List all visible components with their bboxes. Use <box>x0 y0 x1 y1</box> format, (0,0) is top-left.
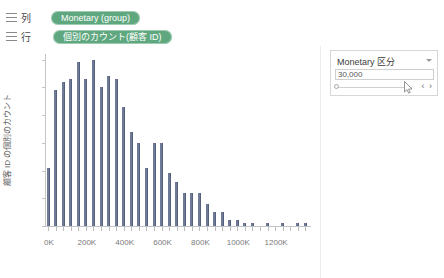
x-axis-tick-mark <box>245 227 246 231</box>
histogram-bar[interactable] <box>84 79 87 226</box>
x-axis-tick-mark <box>116 227 117 231</box>
x-axis-tick-mark <box>109 227 110 231</box>
x-axis-tick-mark <box>268 227 269 231</box>
x-axis-tick-mark <box>101 227 102 231</box>
x-axis-tick-mark <box>260 227 261 231</box>
chevron-down-icon[interactable] <box>426 59 432 62</box>
x-axis-tick-mark <box>237 227 238 231</box>
histogram-bar[interactable] <box>69 79 72 226</box>
x-axis-tick-label: 400K <box>115 238 134 247</box>
x-axis-tick-mark <box>177 227 178 231</box>
x-axis-tick-label: 200K <box>78 238 97 247</box>
histogram-bar[interactable] <box>145 168 148 226</box>
filter-card-title: Monetary 区分 <box>337 55 395 68</box>
x-axis-tick-mark <box>275 227 276 231</box>
x-axis-tick-mark <box>215 227 216 231</box>
y-axis-title: 顧客 ID の個別のカウント <box>2 54 14 226</box>
columns-shelf[interactable]: 列 Monetary (group) <box>0 8 140 27</box>
histogram-bar[interactable] <box>130 132 133 226</box>
x-axis-tick-mark <box>48 227 49 231</box>
histogram-bar[interactable] <box>221 212 224 226</box>
filter-card-monetary[interactable]: Monetary 区分 30,000 ‹ › <box>330 50 438 96</box>
histogram-bar[interactable] <box>175 182 178 226</box>
pill-monetary-group[interactable]: Monetary (group) <box>51 11 140 25</box>
histogram-bar[interactable] <box>168 173 171 226</box>
histogram-bar[interactable] <box>236 220 239 226</box>
x-axis-tick-label: 600K <box>153 238 172 247</box>
x-axis-tick-label: 800K <box>191 238 210 247</box>
histogram-bar[interactable] <box>198 193 201 226</box>
chart-panel[interactable]: 顧客 ID の個別のカウント Monetary (group) 01020304… <box>0 46 320 278</box>
x-axis-tick-mark <box>252 227 253 231</box>
x-axis-tick-mark <box>154 227 155 231</box>
panel-separator <box>320 46 321 278</box>
rows-shelf[interactable]: 行 個別のカウント(顧客 ID) <box>0 27 172 46</box>
x-axis-tick-mark <box>162 227 163 231</box>
x-axis-tick-mark <box>305 227 306 231</box>
histogram-bar[interactable] <box>296 223 299 226</box>
x-axis-tick-mark <box>207 227 208 231</box>
x-axis-tick-mark <box>93 227 94 231</box>
filter-slider-track[interactable] <box>336 87 412 88</box>
histogram-bar[interactable] <box>213 212 216 226</box>
x-axis-tick-mark <box>298 227 299 231</box>
histogram-bar[interactable] <box>115 79 118 226</box>
x-axis-tick-mark <box>290 227 291 231</box>
histogram-bar[interactable] <box>92 60 95 226</box>
x-axis-tick-mark <box>222 227 223 231</box>
histogram-bar[interactable] <box>281 223 284 226</box>
shelf-area: 列 Monetary (group) 行 個別のカウント(顧客 ID) <box>0 0 444 46</box>
histogram-bar[interactable] <box>122 107 125 226</box>
histogram-bar[interactable] <box>153 143 156 226</box>
histogram-plot[interactable] <box>45 54 310 226</box>
x-axis-tick-mark <box>78 227 79 231</box>
x-axis-tick-mark <box>139 227 140 231</box>
x-axis-tick-label: 1000K <box>227 238 250 247</box>
x-axis-tick-mark <box>283 227 284 231</box>
histogram-bar[interactable] <box>304 223 307 226</box>
x-axis-tick-mark <box>124 227 125 231</box>
x-axis-tick-mark <box>199 227 200 231</box>
histogram-bar[interactable] <box>137 143 140 226</box>
histogram-bar[interactable] <box>100 87 103 226</box>
histogram-bar[interactable] <box>160 143 163 226</box>
histogram-bar[interactable] <box>251 223 254 226</box>
x-axis-tick-mark <box>86 227 87 231</box>
filter-nav-arrows[interactable]: ‹ › <box>422 81 434 91</box>
columns-icon <box>6 13 17 22</box>
x-axis-tick-mark <box>63 227 64 231</box>
x-axis-tick-mark <box>192 227 193 231</box>
columns-shelf-label: 列 <box>21 10 45 25</box>
filter-value-box[interactable]: 30,000 <box>335 69 434 80</box>
x-axis-tick-mark <box>169 227 170 231</box>
x-axis-tick-mark <box>71 227 72 231</box>
filter-value-input[interactable]: 30,000 <box>338 70 362 80</box>
histogram-bar[interactable] <box>206 204 209 226</box>
rows-shelf-label: 行 <box>21 29 45 44</box>
x-axis-tick-mark <box>184 227 185 231</box>
histogram-bar[interactable] <box>190 193 193 226</box>
x-axis-tick-label: 1200K <box>265 238 288 247</box>
x-axis-tick-mark <box>131 227 132 231</box>
histogram-bar[interactable] <box>62 82 65 226</box>
rows-icon <box>6 32 17 41</box>
histogram-bar[interactable] <box>47 168 50 226</box>
tableau-worksheet: 列 Monetary (group) 行 個別のカウント(顧客 ID) 顧客 I… <box>0 0 444 278</box>
histogram-bar[interactable] <box>77 62 80 226</box>
histogram-bar[interactable] <box>54 90 57 226</box>
histogram-bar[interactable] <box>266 223 269 226</box>
y-axis-tick-mark <box>42 226 45 227</box>
x-axis-tick-label: 0K <box>44 238 54 247</box>
histogram-bar[interactable] <box>183 193 186 226</box>
histogram-bar[interactable] <box>107 76 110 226</box>
x-axis-tick-mark <box>56 227 57 231</box>
slider-handle-icon[interactable] <box>334 84 339 89</box>
histogram-bar[interactable] <box>228 220 231 226</box>
x-axis-tick-mark <box>146 227 147 231</box>
mouse-pointer-icon <box>404 81 413 94</box>
histogram-bar[interactable] <box>243 223 246 226</box>
pill-distinct-count-customer-id[interactable]: 個別のカウント(顧客 ID) <box>53 30 172 44</box>
x-axis-tick-mark <box>230 227 231 231</box>
